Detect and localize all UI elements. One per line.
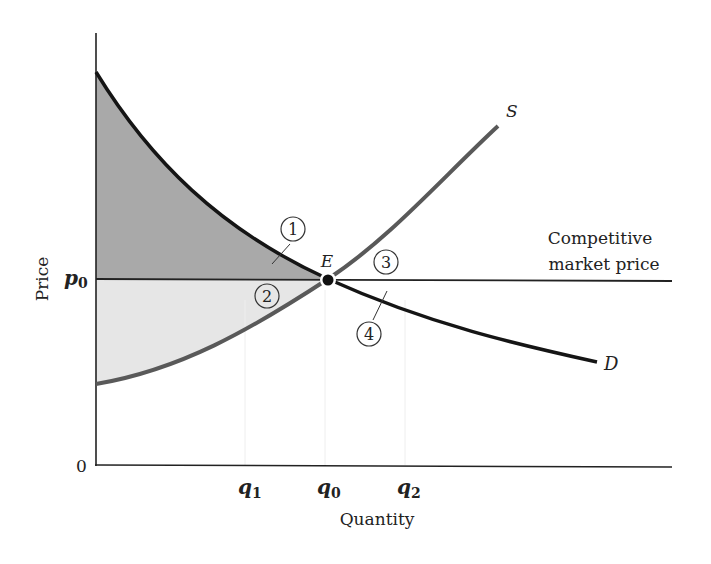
x-axis [95, 465, 672, 467]
pointer-4 [373, 291, 387, 320]
equilibrium-dot [323, 275, 334, 286]
supply-label: S [506, 101, 518, 121]
p0-tick-label: p0 [64, 266, 88, 291]
q0-tick-label: q0 [317, 475, 341, 501]
q1-tick-label: q1 [238, 475, 262, 501]
x-axis-label: Quantity [340, 509, 415, 529]
circle-3-label: 3 [381, 253, 391, 272]
equilibrium-label: E [320, 251, 334, 271]
surplus-chart: 1 2 3 4 E S D Competitive market price P… [0, 0, 711, 564]
consumer-surplus-region [96, 72, 328, 279]
circle-1-label: 1 [288, 220, 298, 239]
q2-tick-label: q2 [397, 475, 421, 501]
market-price-label-line2: market price [548, 254, 659, 274]
circle-2-label: 2 [262, 287, 272, 306]
producer-surplus-region [96, 279, 328, 384]
demand-label: D [603, 353, 619, 374]
market-price-label-line1: Competitive [548, 228, 653, 248]
circle-4-label: 4 [364, 325, 374, 344]
origin-label: 0 [76, 456, 87, 476]
y-axis-label: Price [32, 257, 52, 302]
